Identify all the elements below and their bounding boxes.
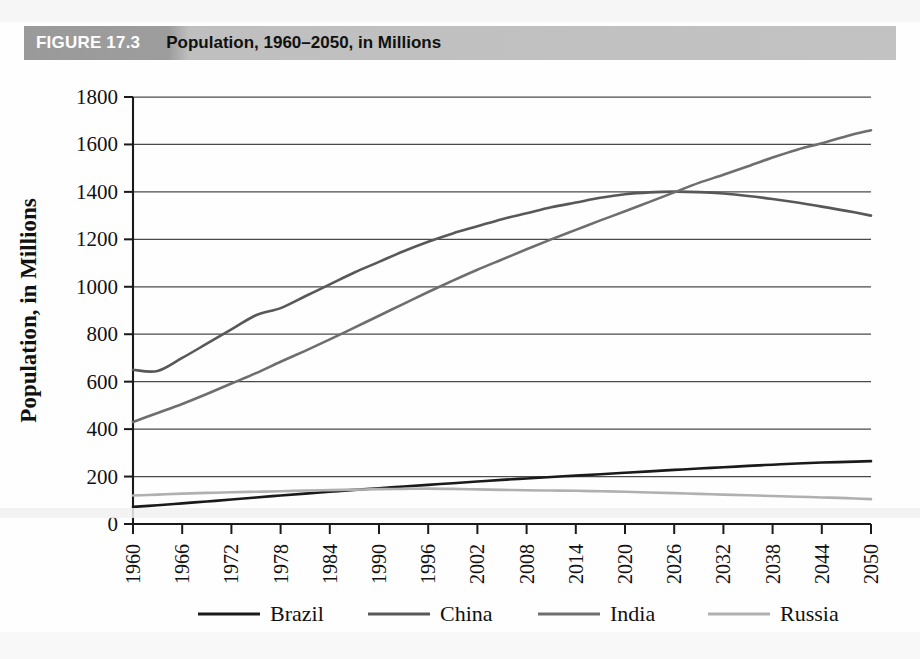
legend-label-brazil: Brazil (270, 601, 324, 626)
figure-title-label: Population, 1960–2050, in Millions (140, 33, 441, 53)
x-tick-label-2002: 2002 (466, 544, 488, 584)
y-axis-tick-labels: 020040060080010001200140016001800 (76, 85, 118, 536)
x-tick-label-1996: 1996 (417, 544, 439, 584)
x-tick-label-1990: 1990 (368, 544, 390, 584)
legend-label-russia: Russia (780, 601, 839, 626)
x-tick-label-2008: 2008 (516, 544, 538, 584)
y-axis-ticks (124, 97, 133, 524)
y-tick-label-1800: 1800 (76, 85, 118, 109)
x-tick-label-2014: 2014 (565, 544, 587, 584)
x-tick-label-1978: 1978 (270, 544, 292, 584)
x-tick-label-1972: 1972 (220, 544, 242, 584)
legend-label-china: China (440, 601, 493, 626)
figure-root: FIGURE 17.3 Population, 1960–2050, in Mi… (0, 0, 920, 659)
legend-label-india: India (610, 601, 655, 626)
scan-artifact-top (0, 0, 920, 22)
x-tick-label-2032: 2032 (712, 544, 734, 584)
figure-header-banner: FIGURE 17.3 Population, 1960–2050, in Mi… (24, 26, 896, 60)
grid-lines (133, 97, 871, 477)
x-tick-label-1966: 1966 (171, 544, 193, 584)
y-tick-label-0: 0 (108, 512, 119, 536)
data-series-lines (133, 130, 871, 507)
y-tick-label-800: 800 (87, 322, 119, 346)
x-axis-tick-labels: 1960196619721978198419901996200220082014… (122, 544, 882, 584)
x-tick-label-1984: 1984 (319, 544, 341, 584)
y-axis-title: Population, in Millions (16, 198, 41, 422)
chart-legend: BrazilChinaIndiaRussia (198, 601, 839, 626)
x-tick-label-2020: 2020 (614, 544, 636, 584)
y-tick-label-200: 200 (87, 465, 119, 489)
x-tick-label-2050: 2050 (860, 544, 882, 584)
series-line-india (133, 130, 871, 422)
x-tick-label-2044: 2044 (811, 544, 833, 584)
y-tick-label-600: 600 (87, 370, 119, 394)
population-line-chart: 020040060080010001200140016001800 196019… (0, 60, 920, 659)
figure-number-label: FIGURE 17.3 (24, 33, 140, 53)
y-tick-label-1000: 1000 (76, 275, 118, 299)
x-axis-ticks (133, 524, 871, 534)
series-line-china (133, 192, 871, 372)
y-tick-label-1400: 1400 (76, 180, 118, 204)
x-tick-label-2026: 2026 (663, 544, 685, 584)
chart-plot-container: 020040060080010001200140016001800 196019… (0, 60, 920, 659)
series-line-brazil (133, 461, 871, 507)
y-tick-label-400: 400 (87, 417, 119, 441)
x-tick-label-2038: 2038 (762, 544, 784, 584)
y-tick-label-1200: 1200 (76, 227, 118, 251)
x-tick-label-1960: 1960 (122, 544, 144, 584)
y-tick-label-1600: 1600 (76, 132, 118, 156)
